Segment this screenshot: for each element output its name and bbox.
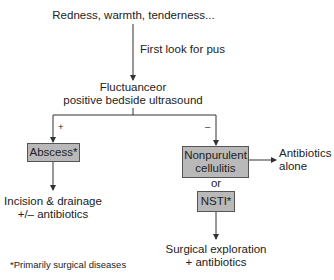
antibiotics-alone: Antibiotics alone (279, 147, 331, 173)
nsti-outcome-line1: Surgical exploration (161, 243, 271, 256)
abscess-outcome-line1: Incision & drainage (3, 195, 103, 208)
decision-line2: positive bedside ultrasound (50, 94, 216, 107)
abscess-outcome-line2: +/– antibiotics (3, 208, 103, 221)
nonpurulent-cellulitis-box: Nonpurulent cellulitis (182, 146, 249, 178)
first-step-label: First look for pus (140, 43, 225, 56)
nsti-box: NSTI* (197, 191, 235, 212)
nonpurulent-line1: Nonpurulent (184, 149, 247, 162)
nsti-label: NSTI* (201, 195, 232, 208)
negative-sign: – (205, 120, 210, 133)
antibiotics-alone-line2: alone (279, 160, 331, 173)
nsti-outcome-line2: + antibiotics (161, 256, 271, 269)
start-symptoms: Redness, warmth, tenderness... (40, 9, 227, 22)
abscess-outcome: Incision & drainage +/– antibiotics (3, 195, 103, 221)
positive-sign: + (58, 120, 64, 133)
decision-line1: Fluctuanceor (50, 81, 216, 94)
abscess-label: Abscess* (30, 146, 78, 159)
footnote: *Primarily surgical diseases (10, 258, 126, 271)
connector-lines (0, 0, 334, 280)
abscess-box: Abscess* (27, 143, 80, 162)
nsti-outcome: Surgical exploration + antibiotics (161, 243, 271, 269)
or-label: or (196, 177, 236, 190)
antibiotics-alone-line1: Antibiotics (279, 147, 331, 160)
nonpurulent-line2: cellulitis (195, 162, 235, 175)
decision-node: Fluctuanceor positive bedside ultrasound (50, 81, 216, 107)
